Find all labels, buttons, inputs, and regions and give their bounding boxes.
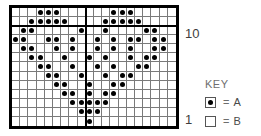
chart-cell-b (61, 62, 69, 71)
chart-cell-a (94, 99, 102, 108)
chart-cell-b (160, 108, 168, 117)
chart-cell-b (102, 81, 110, 90)
chart-cell-a (20, 26, 28, 35)
row-number-10: 10 (185, 27, 199, 40)
chart-cell-b (28, 81, 36, 90)
chart-cell-b (127, 90, 135, 99)
chart-cell-a (110, 90, 118, 99)
chart-cell-b (12, 26, 20, 35)
chart-cell-b (53, 62, 61, 71)
chart-cell-a (53, 35, 61, 44)
chart-cell-b (45, 81, 53, 90)
chart-cell-b (143, 90, 151, 99)
chart-cell-a (53, 72, 61, 81)
chart-cell-a (86, 99, 94, 108)
chart-cell-b (127, 62, 135, 71)
chart-cell-b (86, 26, 94, 35)
chart-cell-b (127, 108, 135, 117)
chart-cell-a (53, 8, 61, 17)
chart-cell-b (119, 44, 127, 53)
chart-cell-a (143, 53, 151, 62)
chart-cell-b (143, 72, 151, 81)
chart-cell-b (12, 117, 20, 126)
chart-cell-b (102, 44, 110, 53)
chart-cell-b (119, 53, 127, 62)
chart-cell-b (61, 108, 69, 117)
chart-cell-b (20, 117, 28, 126)
chart-cell-b (61, 72, 69, 81)
chart-cell-a (135, 35, 143, 44)
chart-cell-a (127, 8, 135, 17)
key-label-b: B (233, 115, 240, 127)
chart-cell-b (94, 53, 102, 62)
chart-cell-b (135, 81, 143, 90)
chart-cell-a (127, 72, 135, 81)
chart-cell-b (45, 90, 53, 99)
chart-cell-b (110, 26, 118, 35)
chart-cell-a (151, 35, 159, 44)
chart-page: 10 1 KEY = A = B (0, 0, 261, 136)
chart-cell-b (102, 62, 110, 71)
chart-cell-a (28, 53, 36, 62)
chart-cell-b (12, 53, 20, 62)
chart-cell-a (45, 62, 53, 71)
chart-cell-b (69, 8, 77, 17)
chart-cell-a (110, 8, 118, 17)
chart-cell-b (94, 81, 102, 90)
chart-cell-b (127, 99, 135, 108)
chart-cell-b (143, 35, 151, 44)
chart-cell-b (53, 26, 61, 35)
chart-cell-b (28, 62, 36, 71)
chart-cell-b (28, 72, 36, 81)
chart-cell-b (53, 108, 61, 117)
chart-cell-b (168, 99, 176, 108)
chart-cell-b (119, 117, 127, 126)
chart-cell-b (135, 72, 143, 81)
chart-cell-b (168, 117, 176, 126)
chart-cell-a (102, 90, 110, 99)
chart-cell-b (135, 44, 143, 53)
chart-cell-b (12, 72, 20, 81)
chart-cell-a (110, 62, 118, 71)
chart-cell-b (94, 8, 102, 17)
chart-cell-b (143, 44, 151, 53)
chart-cell-b (110, 53, 118, 62)
chart-cell-b (143, 108, 151, 117)
chart-cell-b (119, 108, 127, 117)
chart-cell-a (45, 72, 53, 81)
chart-cell-b (86, 35, 94, 44)
chart-cell-b (69, 53, 77, 62)
chart-cell-b (69, 108, 77, 117)
chart-cell-b (37, 35, 45, 44)
chart-cell-b (45, 108, 53, 117)
chart-cell-b (86, 8, 94, 17)
chart-cell-b (160, 72, 168, 81)
chart-cell-b (168, 108, 176, 117)
chart-cell-b (28, 90, 36, 99)
chart-cell-b (168, 26, 176, 35)
chart-cell-b (37, 108, 45, 117)
chart-cell-b (102, 108, 110, 117)
chart-cell-b (135, 26, 143, 35)
chart-cell-b (160, 8, 168, 17)
stitch-chart (9, 5, 179, 129)
chart-cell-a (28, 26, 36, 35)
chart-cell-b (20, 62, 28, 71)
chart-cell-b (86, 62, 94, 71)
chart-cell-b (127, 81, 135, 90)
chart-cell-a (37, 53, 45, 62)
chart-cell-a (69, 99, 77, 108)
chart-cell-b (61, 35, 69, 44)
chart-cell-b (127, 117, 135, 126)
chart-cell-a (160, 35, 168, 44)
row-number-1: 1 (185, 113, 192, 126)
chart-cell-b (102, 35, 110, 44)
chart-cell-a (61, 81, 69, 90)
key-label-a: A (233, 96, 240, 108)
chart-cell-b (69, 72, 77, 81)
chart-cell-b (119, 62, 127, 71)
chart-cell-b (45, 53, 53, 62)
chart-cell-b (20, 72, 28, 81)
chart-cell-b (37, 72, 45, 81)
chart-cell-b (143, 81, 151, 90)
